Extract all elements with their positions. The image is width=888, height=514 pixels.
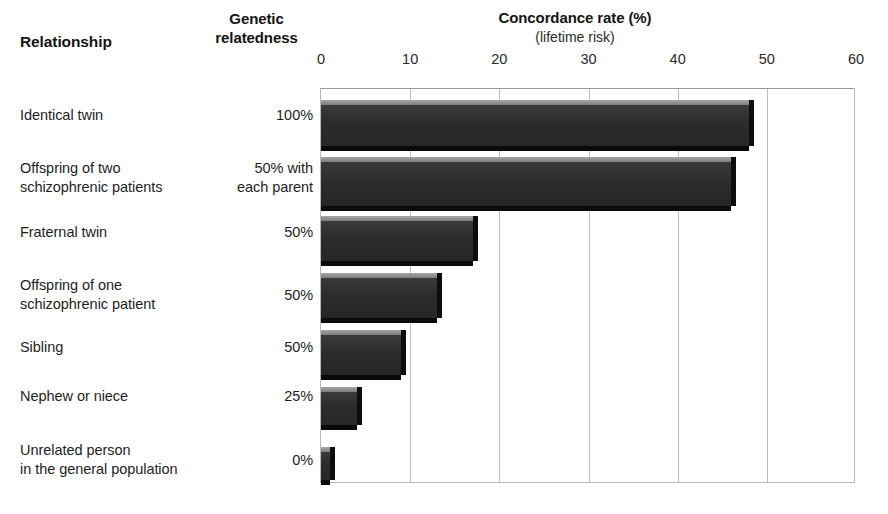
row-genetic-line2: each parent [190, 178, 313, 197]
concordance-rate-chart: Relationship Genetic relatedness Concord… [0, 0, 888, 514]
bar-bottom-shadow-3 [321, 318, 437, 323]
row-label-line1: Offspring of one [20, 276, 205, 295]
bar-2 [321, 221, 478, 266]
row-genetic-line1: 50% [190, 338, 313, 357]
bar-4 [321, 335, 406, 380]
row-genetic-relatedness-5: 25% [190, 387, 313, 406]
genetic-relatedness-header-line1: Genetic [200, 9, 313, 28]
plot-area [320, 88, 855, 483]
x-axis-tick-50: 50 [759, 51, 775, 67]
x-axis-tick-0: 0 [317, 51, 325, 67]
bar-1 [321, 162, 736, 211]
row-genetic-line1: 100% [190, 106, 313, 125]
bar-0 [321, 105, 754, 151]
bar-bottom-shadow-0 [321, 146, 749, 151]
bar-side-face-0 [749, 100, 754, 146]
bar-face-2 [321, 221, 473, 261]
row-label-line1: Nephew or niece [20, 387, 205, 406]
row-label-5: Nephew or niece [20, 387, 205, 406]
bar-bottom-shadow-2 [321, 261, 473, 266]
row-label-line1: Unrelated person [20, 441, 205, 460]
row-genetic-relatedness-6: 0% [190, 451, 313, 470]
row-label-line2: schizophrenic patients [20, 178, 205, 197]
bar-face-3 [321, 278, 437, 318]
bar-bottom-shadow-6 [321, 480, 330, 485]
row-label-3: Offspring of oneschizophrenic patient [20, 276, 205, 314]
bar-side-face-4 [401, 330, 406, 375]
bar-top-face-3 [321, 273, 437, 278]
bar-face-5 [321, 392, 357, 425]
bar-face-6 [321, 452, 330, 480]
relationship-column-header: Relationship [20, 33, 112, 51]
bar-3 [321, 278, 442, 323]
row-genetic-relatedness-3: 50% [190, 286, 313, 305]
bar-top-face-0 [321, 100, 749, 105]
row-label-line1: Identical twin [20, 106, 205, 125]
row-label-2: Fraternal twin [20, 223, 205, 242]
x-axis-tick-30: 30 [580, 51, 596, 67]
genetic-relatedness-header-line2: relatedness [200, 28, 313, 47]
x-axis-tick-40: 40 [670, 51, 686, 67]
row-label-line1: Offspring of two [20, 159, 205, 178]
bar-bottom-shadow-1 [321, 206, 731, 211]
gridline-50 [767, 89, 768, 482]
row-genetic-line1: 50% with [190, 159, 313, 178]
bar-top-face-1 [321, 157, 731, 162]
row-genetic-relatedness-2: 50% [190, 223, 313, 242]
row-genetic-relatedness-4: 50% [190, 338, 313, 357]
bar-side-face-5 [357, 387, 362, 425]
bar-side-face-1 [731, 157, 736, 206]
chart-subtitle: (lifetime risk) [430, 29, 720, 45]
x-axis-tick-60: 60 [848, 51, 864, 67]
row-genetic-line1: 0% [190, 451, 313, 470]
x-axis-tick-20: 20 [491, 51, 507, 67]
row-label-1: Offspring of twoschizophrenic patients [20, 159, 205, 197]
bar-face-0 [321, 105, 749, 146]
row-label-0: Identical twin [20, 106, 205, 125]
row-label-line1: Sibling [20, 338, 205, 357]
row-label-line2: schizophrenic patient [20, 295, 205, 314]
row-label-line2: in the general population [20, 460, 205, 479]
bar-top-face-4 [321, 330, 401, 335]
bar-top-face-2 [321, 216, 473, 221]
row-genetic-relatedness-0: 100% [190, 106, 313, 125]
bar-top-face-6 [321, 447, 330, 452]
bar-6 [321, 452, 335, 485]
bar-side-face-6 [330, 447, 335, 480]
bar-bottom-shadow-5 [321, 425, 357, 430]
row-label-line1: Fraternal twin [20, 223, 205, 242]
bar-side-face-3 [437, 273, 442, 318]
chart-title: Concordance rate (%) [430, 9, 720, 26]
bar-5 [321, 392, 362, 430]
bar-face-1 [321, 162, 731, 206]
row-genetic-line1: 25% [190, 387, 313, 406]
row-label-6: Unrelated personin the general populatio… [20, 441, 205, 479]
bar-bottom-shadow-4 [321, 375, 401, 380]
x-axis-tick-10: 10 [402, 51, 418, 67]
genetic-relatedness-column-header: Genetic relatedness [200, 9, 313, 47]
row-label-4: Sibling [20, 338, 205, 357]
row-genetic-line1: 50% [190, 286, 313, 305]
bar-side-face-2 [473, 216, 478, 261]
row-genetic-line1: 50% [190, 223, 313, 242]
bar-top-face-5 [321, 387, 357, 392]
row-genetic-relatedness-1: 50% witheach parent [190, 159, 313, 197]
bar-face-4 [321, 335, 401, 375]
